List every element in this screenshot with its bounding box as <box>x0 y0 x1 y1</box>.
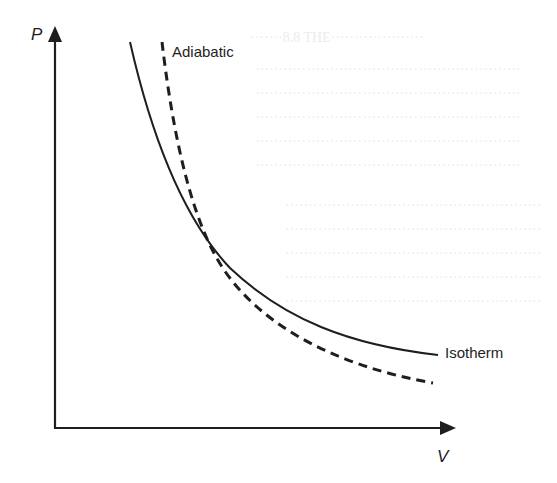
x-axis-arrow-icon <box>440 421 456 435</box>
x-axis <box>54 421 456 435</box>
isotherm-label: Isotherm <box>445 344 503 361</box>
isotherm-curve <box>130 42 438 355</box>
adiabatic-curve <box>162 42 433 383</box>
x-axis-label: V <box>437 447 448 467</box>
pv-diagram <box>0 0 557 483</box>
y-axis-arrow-icon <box>48 26 62 42</box>
adiabatic-label: Adiabatic <box>172 43 234 60</box>
y-axis-label: P <box>31 25 42 45</box>
y-axis <box>48 26 62 428</box>
